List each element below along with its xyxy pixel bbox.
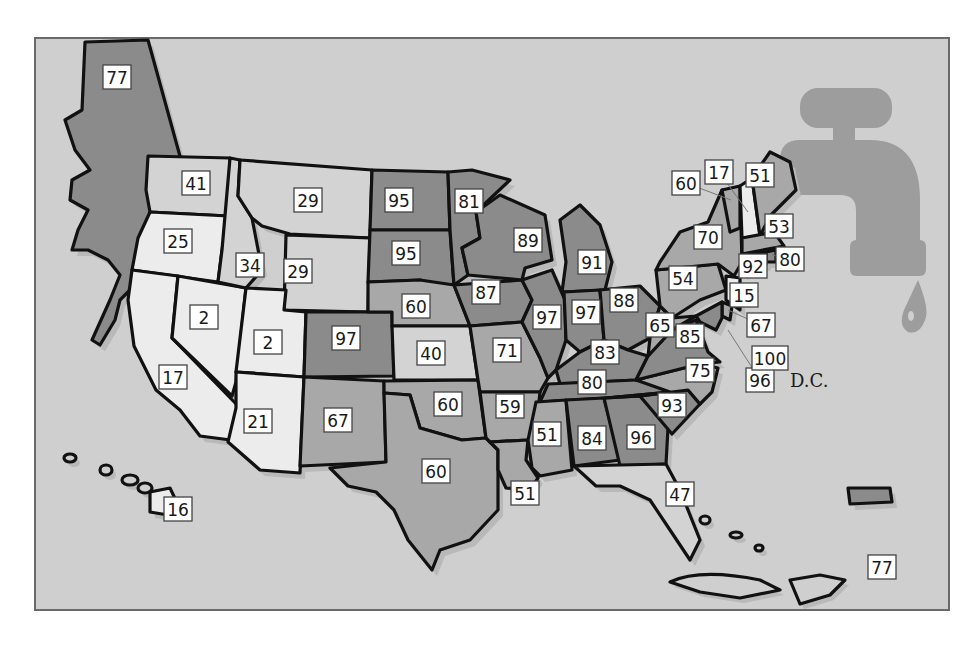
value-label-ak: 77 — [103, 65, 131, 89]
value-label-ny: 70 — [694, 225, 722, 249]
value-label-co: 97 — [332, 326, 360, 350]
value-label-text: 91 — [581, 253, 603, 273]
value-label-text: 60 — [425, 462, 447, 482]
island-outline — [122, 475, 138, 485]
value-label-pr: 77 — [868, 555, 896, 579]
value-label-tx: 60 — [422, 459, 450, 483]
value-label-text: 25 — [167, 232, 189, 252]
region-michigan[interactable] — [560, 205, 612, 292]
value-label-text: 34 — [239, 256, 261, 276]
value-label-ca: 17 — [159, 365, 187, 389]
value-label-nd: 95 — [385, 188, 413, 212]
value-label-ia: 87 — [472, 280, 500, 304]
value-label-ga: 96 — [627, 425, 655, 449]
value-label-text: 17 — [708, 163, 730, 183]
value-label-dc: 100 — [752, 346, 788, 370]
value-label-wy: 29 — [284, 259, 312, 283]
value-label-mo: 71 — [493, 338, 521, 362]
value-label-ct: 92 — [739, 254, 767, 278]
island-outline — [755, 545, 763, 551]
value-label-nc: 75 — [686, 358, 714, 382]
value-label-text: 53 — [768, 217, 790, 237]
value-label-nj: 15 — [730, 283, 758, 307]
value-label-ar: 59 — [496, 394, 524, 418]
value-label-nv: 2 — [190, 305, 218, 329]
value-label-la: 51 — [511, 481, 539, 505]
value-label-text: 100 — [754, 349, 786, 369]
island-outline — [790, 575, 845, 604]
value-label-text: 96 — [630, 428, 652, 448]
value-label-id: 34 — [236, 253, 264, 277]
value-label-text: 17 — [162, 368, 184, 388]
value-label-text: 83 — [594, 343, 616, 363]
faucet-icon — [780, 88, 926, 333]
value-label-mi: 91 — [578, 250, 606, 274]
water-drop-highlight — [908, 311, 914, 321]
island-outline — [100, 465, 112, 475]
value-label-text: 51 — [514, 484, 536, 504]
island-outline — [670, 574, 780, 598]
value-label-text: 92 — [742, 257, 764, 277]
value-label-text: 95 — [388, 191, 410, 211]
value-label-text: 96 — [749, 371, 771, 391]
value-label-vt: 60 — [672, 171, 700, 195]
value-label-text: 80 — [581, 373, 603, 393]
value-label-oh: 88 — [610, 288, 638, 312]
value-label-text: 77 — [106, 68, 128, 88]
value-label-text: 77 — [871, 558, 893, 578]
region-puerto-rico[interactable] — [848, 488, 892, 504]
value-label-wa: 41 — [182, 171, 210, 195]
value-label-ks: 40 — [417, 341, 445, 365]
value-label-md: 96 — [746, 368, 774, 392]
value-label-de: 67 — [747, 313, 775, 337]
value-label-text: 85 — [679, 327, 701, 347]
value-label-ma: 53 — [765, 214, 793, 238]
value-label-or: 25 — [164, 229, 192, 253]
value-label-text: 97 — [536, 308, 558, 328]
value-label-text: 40 — [420, 344, 442, 364]
value-label-mt: 29 — [294, 188, 322, 212]
value-label-text: 70 — [697, 228, 719, 248]
value-label-hi: 16 — [164, 497, 192, 521]
value-label-pa: 54 — [669, 266, 697, 290]
faucet-nozzle — [850, 240, 926, 276]
value-label-ut: 2 — [254, 330, 282, 354]
value-label-text: 71 — [496, 341, 518, 361]
island-outline — [64, 454, 76, 462]
faucet-spout — [780, 140, 920, 245]
value-label-text: 97 — [575, 303, 597, 323]
value-label-text: 65 — [649, 316, 671, 336]
island-outline — [700, 516, 710, 524]
dc-label: D.C. — [790, 370, 828, 391]
value-label-sd: 95 — [392, 241, 420, 265]
value-label-text: 29 — [297, 191, 319, 211]
value-label-text: 2 — [199, 308, 210, 328]
value-label-va: 85 — [676, 324, 704, 348]
value-label-az: 21 — [244, 409, 272, 433]
value-label-tn: 80 — [578, 370, 606, 394]
value-label-text: 16 — [167, 500, 189, 520]
value-label-text: 59 — [499, 397, 521, 417]
value-label-text: 89 — [517, 231, 539, 251]
value-label-text: 29 — [287, 262, 309, 282]
value-label-ky: 83 — [591, 340, 619, 364]
value-label-text: 93 — [661, 396, 683, 416]
value-label-text: 51 — [749, 166, 771, 186]
value-label-text: 87 — [475, 283, 497, 303]
value-label-mn: 81 — [455, 189, 483, 213]
value-label-ri: 80 — [776, 247, 804, 271]
value-label-text: 67 — [750, 316, 772, 336]
value-label-wi: 89 — [514, 228, 542, 252]
value-label-text: 21 — [247, 412, 269, 432]
value-label-nh: 17 — [705, 160, 733, 184]
value-label-sc: 93 — [658, 393, 686, 417]
value-label-al: 84 — [578, 426, 606, 450]
value-label-text: 84 — [581, 429, 603, 449]
us-choropleth-map: 7741251723429292219767959560406060818771… — [0, 0, 978, 651]
value-label-il: 97 — [533, 305, 561, 329]
region-florida[interactable] — [574, 464, 700, 560]
value-label-text: 67 — [327, 411, 349, 431]
value-label-text: 88 — [613, 291, 635, 311]
value-label-text: 80 — [779, 250, 801, 270]
value-label-nm: 67 — [324, 408, 352, 432]
